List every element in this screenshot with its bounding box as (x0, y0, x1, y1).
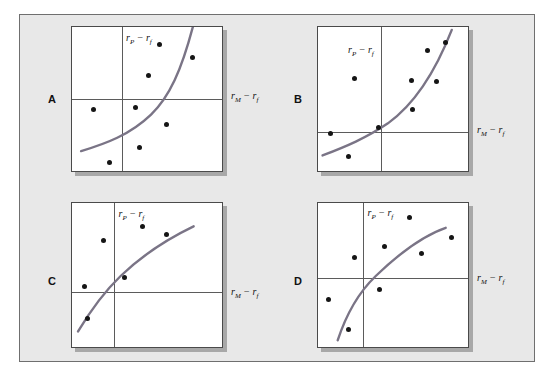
panel-b-fitted-curve (318, 27, 469, 172)
panel-c-plot-box: rP − rf (71, 202, 223, 348)
panel-b-label: B (294, 94, 302, 105)
data-point (140, 224, 145, 229)
data-point (410, 107, 415, 112)
panel-a-x-axis-label: rM − rf (231, 90, 258, 104)
panel-b-x-axis-label: rM − rf (477, 124, 504, 138)
data-point (352, 76, 357, 81)
data-point (352, 255, 357, 260)
data-point (407, 215, 412, 220)
data-point (328, 131, 333, 136)
data-point (326, 297, 331, 302)
data-point (133, 105, 138, 110)
data-point (82, 284, 87, 289)
data-point (346, 154, 351, 159)
data-point (376, 125, 381, 130)
panel-d-label: D (294, 276, 302, 287)
data-point (409, 78, 414, 83)
figure-root: rP − rf A rM − rf (0, 0, 552, 376)
panel-d-x-axis-label: rM − rf (477, 272, 504, 286)
panel-c-fitted-curve (72, 203, 223, 348)
panel-b-plot-box: rP − rf (317, 26, 469, 172)
data-point (419, 251, 424, 256)
data-point (382, 244, 387, 249)
panel-a: rP − rf A rM − rf (71, 26, 223, 172)
panel-a-label: A (48, 94, 56, 105)
data-point (190, 55, 195, 60)
data-point (91, 107, 96, 112)
data-point (101, 238, 106, 243)
panel-b: rP − rf B rM − rf (317, 26, 469, 172)
data-point (425, 48, 430, 53)
panel-d-plot-box: rP − rf (317, 202, 469, 348)
panel-d: rP − rf D rM − rf (317, 202, 469, 348)
data-point (85, 316, 90, 321)
data-point (107, 160, 112, 165)
data-point (157, 42, 162, 47)
panel-c-label: C (48, 276, 56, 287)
panel-a-plot-box: rP − rf (71, 26, 223, 172)
data-point (346, 327, 351, 332)
panel-c-x-axis-label: rM − rf (231, 286, 258, 300)
panel-c: rP − rf C rM − rf (71, 202, 223, 348)
data-point (377, 287, 382, 292)
panel-d-fitted-curve (318, 203, 469, 348)
panel-a-fitted-curve (72, 27, 223, 172)
figure-plate: rP − rf A rM − rf (19, 14, 535, 362)
